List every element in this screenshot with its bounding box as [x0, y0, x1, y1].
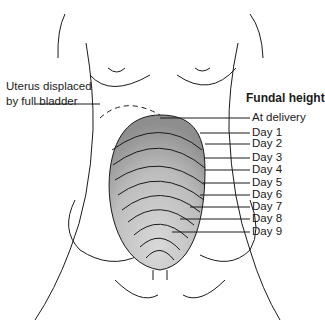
displaced-uterus-label-2: by full bladder: [6, 96, 78, 108]
label-day-6: Day 6: [252, 189, 282, 201]
label-day-3: Day 3: [252, 152, 282, 164]
label-day-8: Day 8: [252, 213, 282, 225]
displaced-uterus-label-1: Uterus displaced: [6, 81, 92, 93]
right-shoulder-outline: [250, 14, 263, 58]
label-day-5: Day 5: [252, 177, 282, 189]
groin-outline: [115, 280, 225, 298]
label-day-2: Day 2: [252, 138, 282, 150]
uterus-at-delivery: [109, 115, 205, 270]
label-day-7: Day 7: [252, 201, 282, 213]
label-at-delivery: At delivery: [252, 112, 306, 124]
left-shoulder-outline: [58, 14, 65, 58]
left-nipple: [108, 68, 125, 72]
diagram-title: Fundal height: [246, 92, 325, 104]
left-breast-outline: [90, 75, 150, 87]
label-day-4: Day 4: [252, 164, 282, 176]
right-nipple: [195, 68, 210, 71]
symphysis-outline: [153, 270, 167, 280]
label-day-9: Day 9: [252, 226, 282, 238]
